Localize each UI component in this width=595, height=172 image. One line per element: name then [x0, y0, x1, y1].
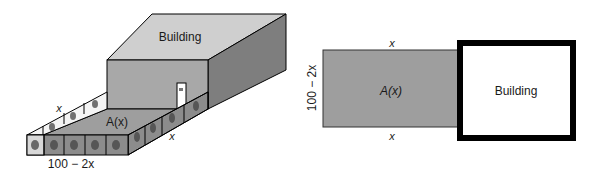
plan-area-label: A(x) — [379, 84, 402, 98]
left-area-label: A(x) — [106, 115, 128, 129]
left-side-label-top: x — [55, 102, 62, 114]
left-figure-3d: Building A(x) x x 100 − 2x — [27, 14, 286, 171]
right-figure-plan: x x A(x) Building 100 − 2x — [305, 37, 573, 142]
plan-top-label: x — [388, 37, 395, 49]
plan-left-label: 100 − 2x — [305, 65, 319, 111]
plan-building-label: Building — [495, 84, 538, 98]
left-building-label: Building — [159, 30, 202, 44]
left-side-label-right: x — [168, 130, 175, 142]
diagram-canvas: Building A(x) x x 100 − 2x x x A(x) Buil… — [0, 0, 595, 172]
plan-bottom-label: x — [388, 130, 395, 142]
left-front-label: 100 − 2x — [48, 157, 94, 171]
